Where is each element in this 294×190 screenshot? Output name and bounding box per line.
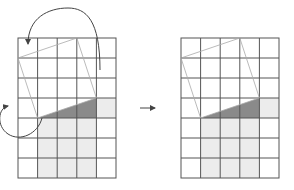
light-fill-cell (259, 98, 279, 118)
light-fill-cell (96, 98, 116, 118)
diagram-canvas (0, 0, 294, 190)
before-panel (0, 8, 116, 178)
light-fill-region (38, 118, 97, 178)
rotation-arrow-top-icon (28, 8, 100, 70)
after-panel (181, 38, 279, 178)
rotation-arrow-bottom-icon (0, 106, 42, 137)
light-fill-region (201, 118, 260, 178)
